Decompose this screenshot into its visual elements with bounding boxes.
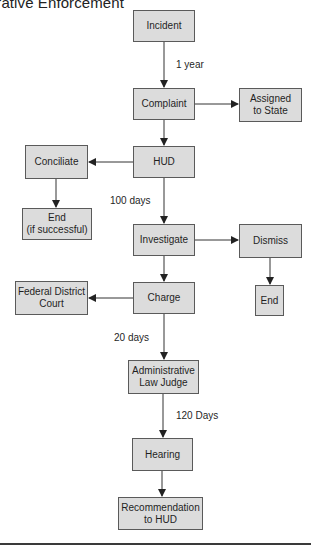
node-administrative-law-judge: Administrative Law Judge [128, 360, 199, 394]
node-federal-district-court: Federal District Court [15, 281, 88, 315]
node-label: Hearing [145, 449, 180, 461]
node-label: Complaint [141, 98, 186, 110]
edge-label-20-days: 20 days [114, 332, 149, 343]
bottom-rule [0, 543, 311, 545]
edge-label-120-days: 120 Days [176, 410, 218, 421]
edge-label-100-days: 100 days [110, 195, 151, 206]
node-label: Assigned to State [250, 93, 291, 117]
node-label: Charge [148, 292, 181, 304]
node-hud: HUD [133, 146, 195, 178]
node-label: Dismiss [253, 235, 288, 247]
node-label: Recommendation to HUD [121, 502, 199, 526]
node-label: Investigate [140, 234, 188, 246]
node-label: End [261, 295, 279, 307]
node-recommendation-to-hud: Recommendation to HUD [118, 497, 203, 530]
node-dismiss: Dismiss [239, 224, 302, 258]
node-conciliate: Conciliate [25, 145, 88, 179]
node-label: Administrative Law Judge [132, 365, 195, 389]
node-complaint: Complaint [133, 88, 195, 120]
edge-label-1-year: 1 year [176, 59, 204, 70]
node-label: Conciliate [35, 156, 79, 168]
node-label: Federal District Court [18, 286, 85, 310]
node-assigned-to-state: Assigned to State [239, 88, 302, 122]
node-label: HUD [153, 156, 175, 168]
node-end-if-successful: End (if successful) [22, 208, 92, 240]
node-hearing: Hearing [132, 438, 193, 471]
node-label: End (if successful) [26, 212, 87, 236]
node-charge: Charge [133, 282, 195, 314]
node-investigate: Investigate [133, 224, 195, 256]
node-end: End [255, 285, 284, 316]
node-label: Incident [146, 20, 181, 32]
node-incident: Incident [133, 10, 195, 42]
